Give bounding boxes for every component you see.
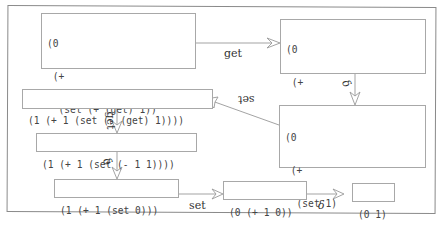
edge-label-g-h: δ bbox=[318, 199, 325, 212]
node-b: (0 (+ (set (+ 0 1)) (set (- (get) 1)))) bbox=[280, 19, 426, 74]
node-a: (0 (+ (set (+ (get) 1)) (set (- (get) 1)… bbox=[41, 13, 196, 69]
edge-label-c-d: set bbox=[238, 93, 255, 106]
edge-label-a-b: get bbox=[224, 47, 242, 60]
node-g: (0 (+ 1 0)) bbox=[223, 181, 307, 200]
edge-label-f-g: set bbox=[189, 199, 206, 212]
node-b-line-1: (0 bbox=[286, 44, 420, 55]
node-c: (0 (+ (set 1) (set (- (get) 1)))) bbox=[279, 105, 426, 168]
node-a-line-1: (0 bbox=[47, 38, 190, 49]
node-a-line-2: (+ bbox=[47, 71, 190, 82]
node-h-line-1: (0 1) bbox=[358, 209, 389, 220]
node-h: (0 1) bbox=[352, 183, 395, 202]
node-d-line-1: (1 (+ 1 (set (- (get) 1)))) bbox=[28, 115, 207, 126]
node-g-line-1: (0 (+ 1 0)) bbox=[229, 207, 301, 218]
node-f: (1 (+ 1 (set 0))) bbox=[54, 179, 179, 198]
edge-label-d-e: get bbox=[104, 112, 117, 130]
node-e: (1 (+ 1 (set (- 1 1)))) bbox=[36, 133, 197, 152]
node-d: (1 (+ 1 (set (- (get) 1)))) bbox=[22, 89, 213, 109]
node-e-line-1: (1 (+ 1 (set (- 1 1)))) bbox=[42, 159, 191, 170]
node-f-line-1: (1 (+ 1 (set 0))) bbox=[60, 205, 173, 216]
node-c-line-1: (0 bbox=[285, 132, 420, 143]
node-c-line-2: (+ bbox=[285, 165, 420, 176]
